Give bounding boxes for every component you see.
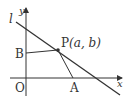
point-p-coords: (a, b) [69, 36, 101, 50]
coordinate-diagram: l y x O B A P(a, b) [0, 0, 130, 112]
y-axis-label: y [18, 5, 25, 16]
point-b-label: B [15, 47, 24, 61]
point-a-label: A [69, 81, 79, 95]
segment-pa [58, 50, 73, 78]
line-l-label: l [9, 12, 13, 26]
point-p-dot [56, 48, 60, 52]
point-p-label: P(a, b) [61, 36, 101, 50]
origin-label: O [15, 81, 25, 95]
x-axis-label: x [117, 78, 123, 89]
segment-bp [26, 50, 58, 53]
line-l [16, 22, 120, 95]
point-p-name: P [61, 36, 69, 50]
